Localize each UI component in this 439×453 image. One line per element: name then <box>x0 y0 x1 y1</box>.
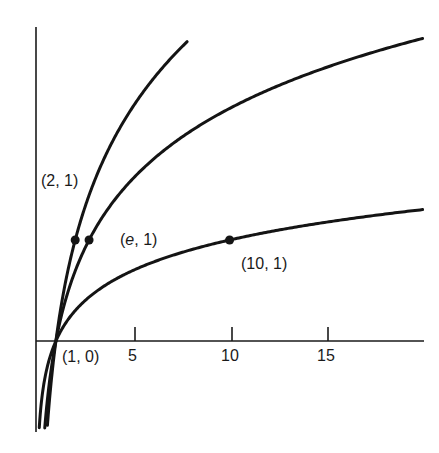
curve-log-2-x <box>47 42 187 426</box>
point-label-2-1: (2, 1) <box>41 172 78 189</box>
point-label-e-1: (e, 1) <box>120 231 157 248</box>
curves <box>39 38 422 428</box>
log-curves-chart: 5 10 15 (2, 1) (e, 1) (10, 1) (1, 0) <box>0 0 439 453</box>
point-marker <box>225 236 234 245</box>
x-tick-label-10: 10 <box>221 347 239 364</box>
point-label-10-1: (10, 1) <box>241 255 287 272</box>
x-tick-label-15: 15 <box>317 347 335 364</box>
curve-ln-x <box>45 38 423 428</box>
point-label-1-0: (1, 0) <box>62 348 99 365</box>
x-tick-label-5: 5 <box>128 347 137 364</box>
point-marker <box>85 236 94 245</box>
point-marker <box>71 236 80 245</box>
